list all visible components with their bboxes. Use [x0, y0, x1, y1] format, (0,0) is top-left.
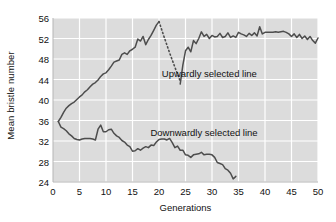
x-axis-label: Generations — [53, 202, 318, 213]
chart-figure: Mean bristle number 242832364044485256 0… — [0, 0, 336, 222]
chart-plot-area — [0, 0, 336, 222]
annotation-upward-line: Upwardly selected line — [162, 68, 257, 79]
annotation-downward-line: Downwardly selected line — [150, 127, 257, 138]
